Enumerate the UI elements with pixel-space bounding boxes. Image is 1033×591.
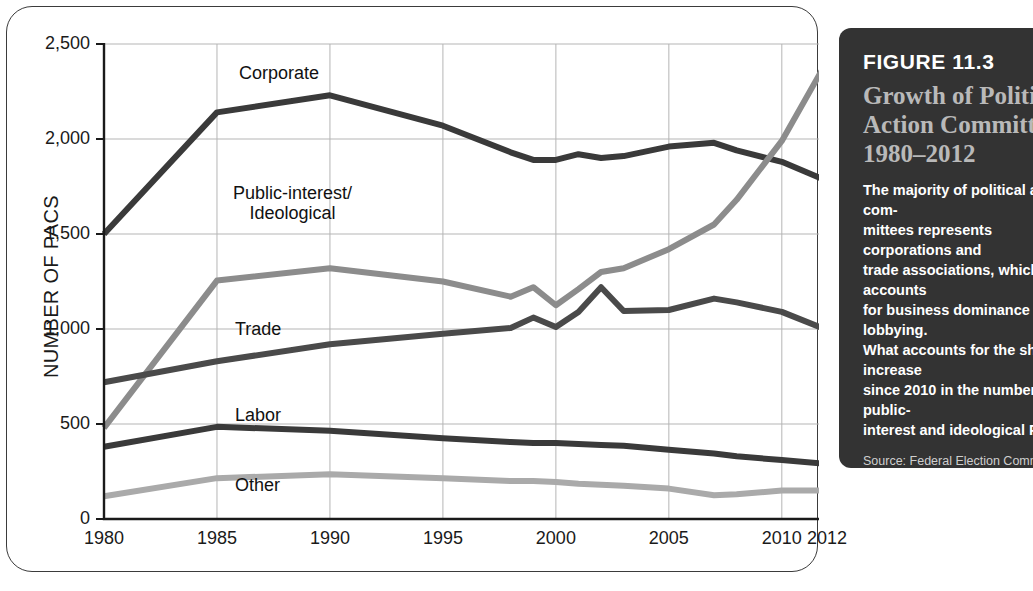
y-tick-label: 1,500 <box>24 223 90 244</box>
series-line <box>104 427 819 464</box>
x-tick-label: 2000 <box>516 528 596 549</box>
series-label: Public-interest/ Ideological <box>233 183 352 223</box>
series-line <box>104 95 819 234</box>
x-tick-label: 1985 <box>177 528 257 549</box>
line-chart-svg <box>7 7 819 573</box>
y-axis-title: NUMBER OF PACS <box>40 157 63 417</box>
y-tick-label: 1,000 <box>24 318 90 339</box>
series-label: Corporate <box>239 63 319 83</box>
series-label: Trade <box>235 319 281 339</box>
y-tick-label: 2,500 <box>24 33 90 54</box>
x-tick-label: 1980 <box>64 528 144 549</box>
x-tick-label: 2005 <box>629 528 709 549</box>
series-lines <box>104 61 819 496</box>
series-line <box>104 474 819 496</box>
figure-source: Source: Federal Election Commission, www… <box>863 453 1033 468</box>
x-tick-label: 1995 <box>403 528 483 549</box>
figure-root: NUMBER OF PACS 05001,0001,5002,0002,500 … <box>0 0 1033 591</box>
plot-area: NUMBER OF PACS 05001,0001,5002,0002,500 … <box>7 7 819 573</box>
y-tick-label: 2,000 <box>24 128 90 149</box>
series-label: Other <box>235 475 280 495</box>
figure-body-text: The majority of political action com- mi… <box>863 180 1033 440</box>
x-tick-label: 2012 <box>787 528 867 549</box>
series-label: Labor <box>235 405 281 425</box>
series-line <box>104 287 819 382</box>
y-tick-label: 0 <box>24 508 90 529</box>
x-tick-label: 1990 <box>290 528 370 549</box>
figure-number: FIGURE 11.3 <box>863 50 1033 74</box>
chart-panel: NUMBER OF PACS 05001,0001,5002,0002,500 … <box>6 6 818 572</box>
y-tick-label: 500 <box>24 413 90 434</box>
figure-caption-box: FIGURE 11.3 Growth of Political Action C… <box>839 28 1033 468</box>
figure-title: Growth of Political Action Committees, 1… <box>863 81 1033 168</box>
